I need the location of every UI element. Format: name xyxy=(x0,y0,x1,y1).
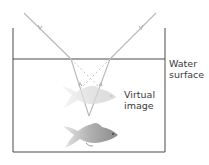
light-rays-air xyxy=(24,13,156,59)
virtual-image-label: Virtual image xyxy=(124,89,155,111)
water-surface-label-line2: surface xyxy=(169,69,204,80)
real-fish xyxy=(63,123,118,148)
water-surface-label: Water surface xyxy=(169,58,204,80)
water-surface-label-line1: Water xyxy=(169,58,204,69)
virtual-fish-image xyxy=(62,85,116,108)
refraction-diagram xyxy=(0,0,209,165)
virtual-image-label-line1: Virtual xyxy=(124,89,155,100)
virtual-image-label-line2: image xyxy=(124,100,155,111)
